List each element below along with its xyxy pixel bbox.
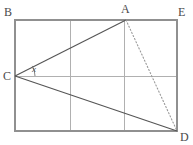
segment-CD bbox=[15, 76, 177, 131]
grid-lines bbox=[15, 20, 177, 131]
geometry-figure: B E A C D x bbox=[0, 0, 193, 145]
vertex-label-a: A bbox=[121, 3, 130, 15]
vertex-label-c: C bbox=[3, 70, 11, 82]
angle-label-x: x bbox=[32, 65, 36, 74]
vertex-label-e: E bbox=[178, 6, 185, 18]
figure-canvas bbox=[0, 0, 193, 145]
vertex-label-d: D bbox=[180, 131, 189, 143]
vertex-label-b: B bbox=[4, 6, 12, 18]
